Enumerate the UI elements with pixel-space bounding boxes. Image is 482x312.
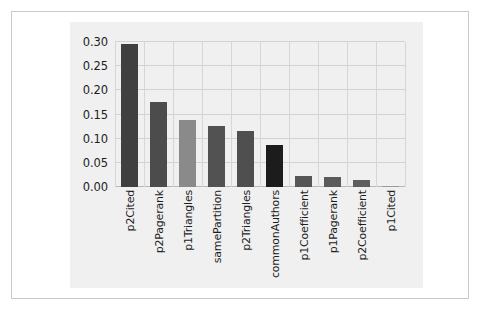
bar [179, 120, 196, 187]
bar [150, 102, 167, 187]
bar-slot [318, 42, 347, 187]
bar [324, 177, 341, 187]
y-axis-tick-label: 0.20 [83, 83, 108, 97]
x-axis: p2Citedp2Pagerankp1TrianglessamePartitio… [115, 190, 405, 286]
bar [208, 126, 225, 187]
x-axis-slot: p1Cited [376, 190, 405, 286]
bar [266, 145, 283, 187]
bar-series [115, 42, 405, 187]
x-axis-tick-label: p1Pagerank [326, 190, 339, 253]
bar-slot [173, 42, 202, 187]
bar-slot [144, 42, 173, 187]
x-axis-tick-label: samePartition [210, 190, 223, 263]
x-axis-slot: p2Pagerank [144, 190, 173, 286]
x-axis-tick-label: p1Triangles [181, 190, 194, 251]
x-axis-tick-label: p2Cited [123, 190, 136, 231]
x-axis-slot: p1Coefficient [289, 190, 318, 286]
bar [237, 131, 254, 187]
x-axis-tick-label: p1Coefficient [297, 190, 310, 261]
bar-slot [289, 42, 318, 187]
bar [382, 186, 399, 187]
y-axis: 0.000.050.100.150.200.250.30 [70, 42, 111, 187]
bar-slot [115, 42, 144, 187]
y-axis-tick-label: 0.30 [83, 35, 108, 49]
bar [295, 176, 312, 187]
bar [353, 180, 370, 187]
x-axis-tick-label: p2Coefficient [355, 190, 368, 261]
plot-area [115, 42, 405, 187]
bar [121, 44, 138, 187]
x-axis-tick-label: p1Cited [384, 190, 397, 231]
x-axis-slot: p2Triangles [231, 190, 260, 286]
x-axis-tick-label: p2Pagerank [152, 190, 165, 253]
x-axis-slot: samePartition [202, 190, 231, 286]
bar-slot [347, 42, 376, 187]
bar-slot [202, 42, 231, 187]
x-axis-tick-label: p2Triangles [239, 190, 252, 251]
x-axis-slot: commonAuthors [260, 190, 289, 286]
bar-slot [231, 42, 260, 187]
x-axis-tick-label: commonAuthors [268, 190, 281, 278]
y-axis-tick-label: 0.05 [83, 156, 108, 170]
y-axis-tick-label: 0.10 [83, 132, 108, 146]
chart-panel: 0.000.050.100.150.200.250.30 p2Citedp2Pa… [70, 22, 423, 288]
figure-frame: 0.000.050.100.150.200.250.30 p2Citedp2Pa… [11, 11, 469, 299]
y-axis-tick-label: 0.15 [83, 108, 108, 122]
bar-slot [260, 42, 289, 187]
x-axis-slot: p2Cited [115, 190, 144, 286]
x-axis-slot: p2Coefficient [347, 190, 376, 286]
bar-slot [376, 42, 405, 187]
x-axis-slot: p1Triangles [173, 190, 202, 286]
x-axis-slot: p1Pagerank [318, 190, 347, 286]
y-axis-tick-label: 0.00 [83, 180, 108, 194]
vertical-gridline [405, 42, 406, 187]
y-axis-tick-label: 0.25 [83, 59, 108, 73]
